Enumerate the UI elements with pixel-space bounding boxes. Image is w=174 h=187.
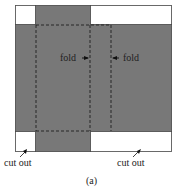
fold-label-right: fold [123, 52, 139, 63]
box-net-diagram: fold fold cut out cut out (a) [0, 0, 174, 187]
cutout-bottom-right [91, 132, 172, 152]
cutout-top-left [16, 6, 36, 25]
cutout-label-right: cut out [117, 157, 145, 168]
net-body [15, 5, 172, 152]
cutout-top-right [91, 6, 172, 25]
cutout-bottom-left [16, 132, 36, 152]
figure-caption: (a) [86, 175, 97, 187]
fold-label-left: fold [60, 52, 76, 63]
cutout-label-left: cut out [4, 157, 32, 168]
